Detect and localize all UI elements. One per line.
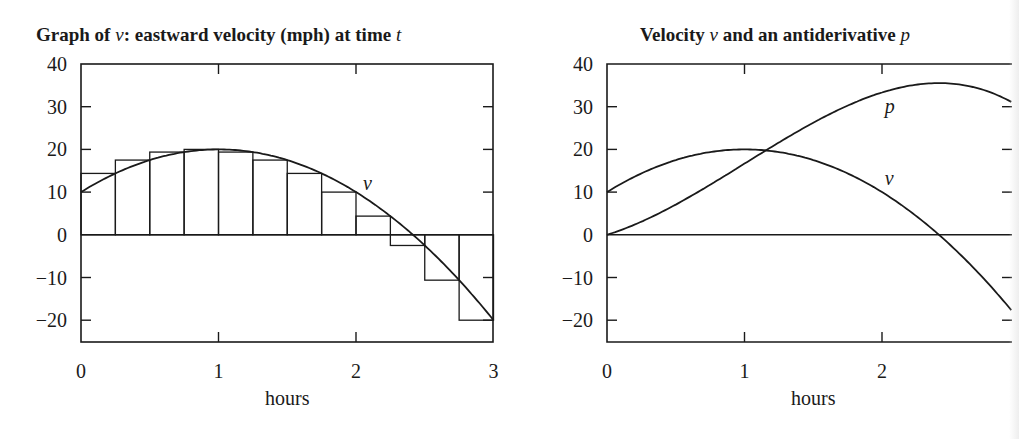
x-tick-label: 2 — [877, 360, 887, 382]
y-tick-label: 10 — [573, 181, 593, 203]
x-axis-label: hours — [791, 387, 836, 409]
y-tick-label: −10 — [562, 267, 593, 289]
plot-frame — [607, 64, 1012, 342]
charts-canvas: 403020100−10−200123hoursv403020100−10−20… — [0, 0, 1019, 439]
x-tick-label: 2 — [351, 360, 361, 382]
x-axis-label: hours — [265, 387, 310, 409]
y-tick-label: 30 — [47, 96, 67, 118]
y-tick-label: −20 — [36, 309, 67, 331]
y-tick-label: −20 — [562, 309, 593, 331]
right-chart: 403020100−10−20012hourspv — [562, 53, 1012, 409]
x-tick-label: 1 — [740, 360, 750, 382]
x-tick-label: 0 — [76, 360, 86, 382]
y-tick-label: 20 — [47, 138, 67, 160]
riemann-rectangle — [287, 173, 321, 234]
riemann-rectangle — [253, 160, 287, 235]
x-tick-label: 0 — [602, 360, 612, 382]
curve-label-v: v — [885, 167, 894, 189]
riemann-rectangle — [150, 152, 184, 235]
y-tick-label: 40 — [47, 53, 67, 75]
left-chart: 403020100−10−200123hoursv — [36, 53, 499, 409]
y-tick-label: 0 — [57, 224, 67, 246]
y-tick-label: 10 — [47, 181, 67, 203]
x-tick-label: 1 — [214, 360, 224, 382]
riemann-rectangle — [356, 216, 390, 235]
x-tick-label: 3 — [489, 360, 499, 382]
y-tick-label: 30 — [573, 96, 593, 118]
page-edge-shadow — [1009, 0, 1019, 439]
curve-label-p: p — [883, 95, 895, 118]
y-tick-label: 0 — [583, 224, 593, 246]
riemann-rectangle — [184, 149, 218, 234]
y-tick-label: 20 — [573, 138, 593, 160]
riemann-rectangle — [322, 192, 356, 235]
curve-label-v: v — [363, 172, 372, 194]
curve-v — [607, 149, 1011, 310]
y-tick-label: 40 — [573, 53, 593, 75]
riemann-rectangle — [219, 152, 253, 235]
y-tick-label: −10 — [36, 267, 67, 289]
